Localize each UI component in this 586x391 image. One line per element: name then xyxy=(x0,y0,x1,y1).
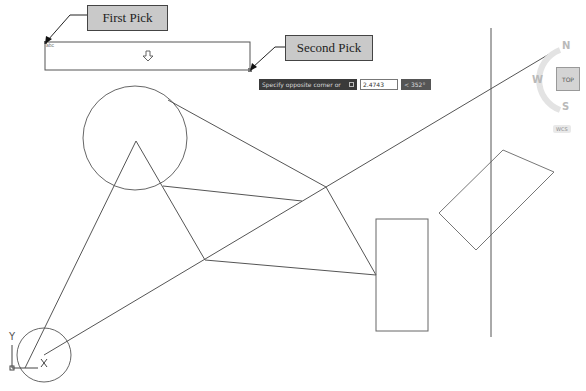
second-pick-label: Second Pick xyxy=(297,40,362,56)
distance-input[interactable]: 2.4743 xyxy=(360,79,398,90)
compass-north[interactable]: N xyxy=(562,40,570,51)
first-pick-callout: First Pick xyxy=(87,5,168,31)
compass-south[interactable]: S xyxy=(562,101,569,112)
second-pick-callout: Second Pick xyxy=(285,35,373,61)
prompt-text: Specify opposite corner or xyxy=(262,79,341,90)
dynamic-input-prompt: Specify opposite corner or xyxy=(259,79,357,90)
ucs-y-label: Y xyxy=(9,331,15,342)
selection-window xyxy=(45,42,250,70)
wcs-menu[interactable]: WCS xyxy=(553,125,571,133)
viewcube-top-face[interactable]: TOP xyxy=(556,67,580,91)
ucs-icon xyxy=(10,345,47,370)
drawing-lines[interactable] xyxy=(25,50,556,368)
angle-input[interactable]: < 352° xyxy=(401,79,431,90)
rectangle-upright[interactable] xyxy=(376,219,428,331)
dynamic-input-tooltip: Specify opposite corner or 2.4743 < 352° xyxy=(259,79,431,90)
arrow-down-icon xyxy=(143,51,153,61)
grip-label: abc xyxy=(46,42,54,48)
rectangle-rotated[interactable] xyxy=(439,150,554,250)
second-pick-leader xyxy=(250,47,285,71)
first-pick-label: First Pick xyxy=(102,10,152,26)
compass-west[interactable]: W xyxy=(532,74,543,85)
options-dropdown-icon[interactable] xyxy=(349,82,354,87)
first-pick-leader xyxy=(45,15,87,44)
